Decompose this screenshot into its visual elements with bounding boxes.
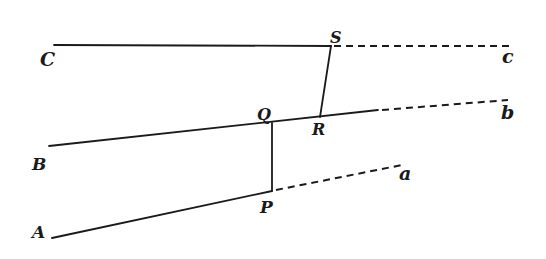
line-A-P <box>52 191 272 238</box>
line-R-b-dashed <box>382 100 508 110</box>
label-P: P <box>259 197 274 217</box>
label-c: c <box>502 45 514 67</box>
label-A: A <box>30 222 45 242</box>
line-C-S <box>54 45 331 46</box>
label-Q: Q <box>257 105 271 124</box>
label-S: S <box>330 28 342 47</box>
geometric-diagram: C S c Q R b B a P A <box>0 0 546 259</box>
label-C: C <box>40 48 55 70</box>
label-R: R <box>311 120 325 139</box>
line-B-R <box>49 110 378 146</box>
label-a: a <box>399 162 411 184</box>
label-b: b <box>501 101 514 123</box>
line-S-R <box>320 46 331 117</box>
line-P-a-dashed <box>276 165 402 190</box>
label-B: B <box>31 154 46 174</box>
